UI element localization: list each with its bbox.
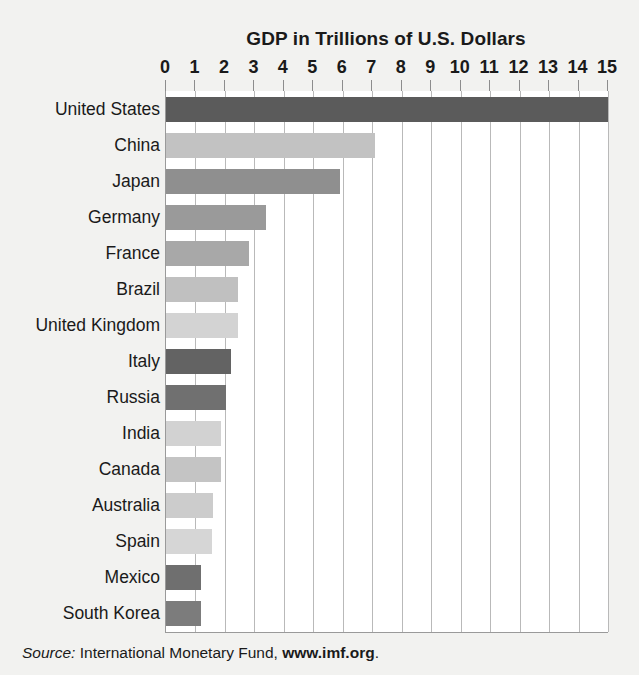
source-period: . (375, 644, 379, 661)
bar-germany (166, 205, 266, 230)
bar-japan (166, 169, 340, 194)
x-tick-mark-11 (489, 80, 490, 91)
x-tick-label-3: 3 (248, 56, 258, 78)
gridline-15 (608, 91, 609, 632)
category-label-mexico: Mexico (0, 565, 160, 590)
x-tick-label-13: 13 (538, 56, 558, 78)
plot-area (165, 91, 608, 633)
category-labels: United StatesChinaJapanGermanyFranceBraz… (0, 91, 160, 632)
x-tick-mark-12 (519, 80, 520, 91)
x-tick-mark-13 (548, 80, 549, 91)
bar-russia (166, 385, 226, 410)
x-axis-tick-labels: 0123456789101112131415 (0, 56, 639, 80)
x-tick-label-5: 5 (307, 56, 317, 78)
category-label-united-states: United States (0, 97, 160, 122)
x-tick-label-0: 0 (160, 56, 170, 78)
category-label-united-kingdom: United Kingdom (0, 313, 160, 338)
x-tick-label-12: 12 (509, 56, 529, 78)
x-tick-mark-4 (283, 80, 284, 91)
bar-italy (166, 349, 231, 374)
x-tick-label-15: 15 (597, 56, 617, 78)
x-tick-label-14: 14 (568, 56, 588, 78)
category-label-australia: Australia (0, 493, 160, 518)
x-tick-label-6: 6 (337, 56, 347, 78)
source-note: Source: International Monetary Fund, www… (22, 644, 379, 662)
x-tick-mark-3 (253, 80, 254, 91)
x-tick-label-7: 7 (366, 56, 376, 78)
x-tick-mark-15 (607, 80, 608, 91)
category-label-italy: Italy (0, 349, 160, 374)
bar-south-korea (166, 601, 201, 626)
x-tick-label-11: 11 (480, 56, 499, 78)
bar-mexico (166, 565, 201, 590)
bar-india (166, 421, 221, 446)
x-tick-mark-0 (165, 80, 166, 91)
chart-title: GDP in Trillions of U.S. Dollars (165, 28, 607, 50)
category-label-india: India (0, 421, 160, 446)
x-tick-mark-10 (460, 80, 461, 91)
x-tick-label-2: 2 (219, 56, 229, 78)
bar-france (166, 241, 249, 266)
x-tick-label-4: 4 (278, 56, 288, 78)
x-tick-mark-6 (342, 80, 343, 91)
category-label-russia: Russia (0, 385, 160, 410)
bars-group (166, 91, 608, 632)
x-tick-label-10: 10 (450, 56, 470, 78)
bar-united-states (166, 97, 608, 122)
category-label-japan: Japan (0, 169, 160, 194)
category-label-china: China (0, 133, 160, 158)
x-axis-tick-marks (0, 80, 639, 91)
bar-australia (166, 493, 213, 518)
category-label-canada: Canada (0, 457, 160, 482)
x-tick-mark-1 (194, 80, 195, 91)
category-label-germany: Germany (0, 205, 160, 230)
source-url: www.imf.org (282, 644, 374, 661)
x-tick-mark-7 (371, 80, 372, 91)
source-organization: International Monetary Fund, (80, 644, 278, 661)
x-tick-mark-9 (430, 80, 431, 91)
bar-canada (166, 457, 221, 482)
bar-spain (166, 529, 212, 554)
category-label-brazil: Brazil (0, 277, 160, 302)
x-tick-mark-5 (312, 80, 313, 91)
bar-brazil (166, 277, 238, 302)
category-label-spain: Spain (0, 529, 160, 554)
bar-china (166, 133, 375, 158)
x-tick-mark-8 (401, 80, 402, 91)
x-tick-mark-2 (224, 80, 225, 91)
x-tick-mark-14 (578, 80, 579, 91)
category-label-south-korea: South Korea (0, 601, 160, 626)
gdp-bar-chart-figure: GDP in Trillions of U.S. Dollars 0123456… (0, 0, 639, 675)
bar-united-kingdom (166, 313, 238, 338)
x-tick-label-1: 1 (189, 56, 199, 78)
source-label: Source: (22, 644, 75, 661)
x-tick-label-8: 8 (396, 56, 406, 78)
category-label-france: France (0, 241, 160, 266)
x-tick-label-9: 9 (425, 56, 435, 78)
